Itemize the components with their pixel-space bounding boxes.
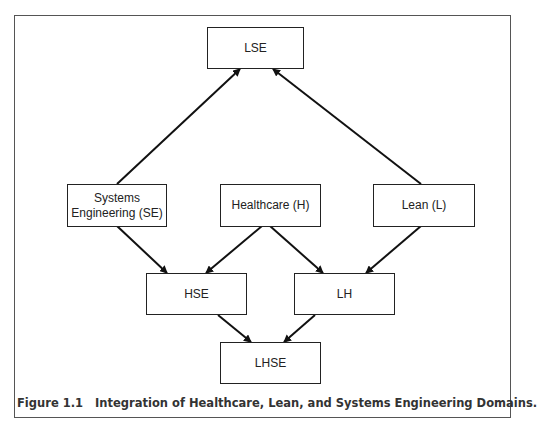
arrow-se-to-lse	[117, 69, 240, 184]
node-lse: LSE	[207, 27, 304, 69]
figure-caption: Figure 1.1Integration of Healthcare, Lea…	[17, 396, 537, 410]
node-hse-label: HSE	[184, 287, 209, 302]
node-lh: LH	[294, 273, 395, 315]
node-se-label-line1: Systems	[94, 191, 140, 206]
arrow-se-to-hse	[117, 226, 167, 273]
arrow-lh-to-lhse	[284, 315, 315, 342]
node-lh-label: LH	[337, 287, 352, 302]
node-lean: Lean (L)	[373, 184, 475, 227]
node-lhse: LHSE	[220, 342, 321, 384]
arrow-l-to-lse	[273, 69, 421, 184]
node-lse-label: LSE	[244, 41, 267, 56]
figure-caption-text: Integration of Healthcare, Lean, and Sys…	[95, 396, 537, 410]
arrow-h-to-lh	[270, 226, 323, 273]
node-h-label: Healthcare (H)	[231, 198, 309, 213]
node-lhse-label: LHSE	[255, 356, 286, 371]
node-systems-engineering: Systems Engineering (SE)	[67, 184, 167, 227]
arrow-h-to-hse	[206, 226, 262, 273]
figure-number: Figure 1.1	[17, 396, 83, 410]
arrow-l-to-lh	[366, 226, 421, 273]
node-l-label: Lean (L)	[402, 198, 447, 213]
node-healthcare: Healthcare (H)	[220, 184, 321, 227]
node-se-label-line2: Engineering (SE)	[71, 206, 162, 221]
node-hse: HSE	[146, 273, 247, 315]
arrow-hse-to-lhse	[218, 315, 251, 342]
